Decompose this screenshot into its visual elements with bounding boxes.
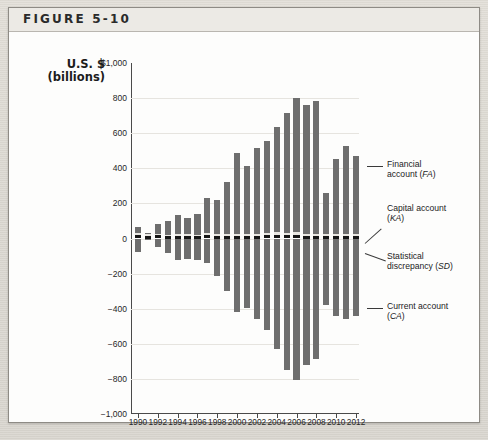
bar-group <box>145 63 151 414</box>
annotation-capital-account: Capital account(KA) <box>387 203 483 224</box>
bar-segment-financial-account <box>333 159 339 233</box>
bar-group <box>204 63 210 414</box>
bar-segment-financial-account <box>165 221 171 234</box>
bar-group <box>135 63 141 414</box>
bar-segment-current-account <box>333 239 339 317</box>
bar-segment-financial-account <box>303 105 309 234</box>
x-axis-tick-label: 2000 <box>228 417 246 427</box>
bar-segment-financial-account <box>244 166 250 234</box>
bar-segment-financial-account <box>194 214 200 235</box>
bar-segment-financial-account <box>155 224 161 233</box>
x-axis-tick-label: 2004 <box>268 417 286 427</box>
bar-segment-current-account <box>313 239 319 360</box>
x-axis-tick-label: 1998 <box>208 417 226 427</box>
figure-card: FIGURE 5-10 U.S. $ (billions) $1,0008006… <box>8 7 480 423</box>
bar-group <box>214 63 220 414</box>
bar-group <box>155 63 161 414</box>
bar-segment-current-account <box>343 239 349 320</box>
bar-segment-financial-account <box>274 127 280 232</box>
bar-segment-current-account <box>284 239 290 370</box>
bar-group <box>303 63 309 414</box>
bar-segment-financial-account <box>175 215 181 234</box>
bar-group <box>293 63 299 414</box>
bar-segment-financial-account <box>135 227 141 234</box>
annotation-leader-line <box>365 228 382 243</box>
annotation-leader-line <box>367 308 383 309</box>
bar-group <box>343 63 349 414</box>
bar-segment-current-account <box>234 239 240 312</box>
y-axis-tick-label: 600 <box>113 128 127 138</box>
bar-segment-current-account <box>323 239 329 306</box>
y-axis-labels: $1,0008006004002000−200−400−600−800−1,00… <box>71 63 127 414</box>
y-axis-tick-label: −400 <box>108 304 127 314</box>
x-axis-tick-label: 1992 <box>149 417 167 427</box>
bar-segment-financial-account <box>353 156 359 235</box>
bar-segment-statistical-discrepancy <box>293 235 299 238</box>
bar-segment-current-account <box>145 239 151 240</box>
y-axis-tick-label: $1,000 <box>101 58 127 68</box>
bar-segment-current-account <box>244 239 250 309</box>
bar-segment-current-account <box>353 239 359 316</box>
x-axis-labels: 1990199219941996199820002002200420062008… <box>131 417 363 431</box>
bar-segment-financial-account <box>343 146 349 234</box>
bar-segment-financial-account <box>264 141 270 234</box>
chart-annotations: Financialaccount (FA)Capital account(KA)… <box>365 63 483 363</box>
bar-segment-current-account <box>155 239 161 248</box>
annotation-line1: Statistical <box>387 251 483 261</box>
x-axis-tick-label: 2002 <box>248 417 266 427</box>
bar-group <box>264 63 270 414</box>
annotation-line1: Capital account <box>387 203 483 213</box>
bar-segment-financial-account <box>254 148 260 233</box>
bar-segment-financial-account <box>204 198 210 233</box>
bar-segment-current-account <box>254 239 260 320</box>
y-axis-tick-label: −200 <box>108 269 127 279</box>
bar-segment-current-account <box>135 239 141 253</box>
bar-group <box>313 63 319 414</box>
bar-segment-current-account <box>293 239 299 381</box>
bar-group <box>184 63 190 414</box>
y-axis-tick-label: −600 <box>108 339 127 349</box>
bar-segment-financial-account <box>184 218 190 235</box>
bar-group <box>353 63 359 414</box>
bar-segment-current-account <box>194 239 200 261</box>
x-axis-tick-label: 2008 <box>307 417 325 427</box>
x-axis-tick-label: 1996 <box>188 417 206 427</box>
bar-segment-current-account <box>184 239 190 259</box>
plot-area <box>131 63 359 414</box>
bar-segment-financial-account <box>284 113 290 232</box>
bar-segment-financial-account <box>323 193 329 235</box>
bar-group <box>274 63 280 414</box>
bar-segment-current-account <box>274 239 280 350</box>
annotation-current-account: Current account(CA) <box>387 301 483 322</box>
y-axis-tick-label: 0 <box>122 234 127 244</box>
bar-group <box>333 63 339 414</box>
x-axis-tick-label: 2010 <box>327 417 345 427</box>
bar-group <box>234 63 240 414</box>
bar-group <box>323 63 329 414</box>
bar-segment-current-account <box>175 239 181 260</box>
x-axis-tick-label: 1994 <box>168 417 186 427</box>
annotation-line2: (CA) <box>387 311 483 321</box>
annotation-statistical-discrepancy: Statisticaldiscrepancy (SD) <box>387 251 483 272</box>
x-axis-tick-label: 2012 <box>347 417 365 427</box>
bar-group <box>194 63 200 414</box>
y-axis-tick-label: 800 <box>113 93 127 103</box>
annotation-financial-account: Financialaccount (FA) <box>387 159 483 180</box>
annotation-leader-line <box>365 253 386 261</box>
bar-segment-current-account <box>204 239 210 264</box>
figure-header: FIGURE 5-10 <box>9 8 479 32</box>
x-axis-tick-label: 1990 <box>129 417 147 427</box>
bar-segment-current-account <box>214 239 220 277</box>
bar-segment-current-account <box>165 239 171 254</box>
bar-group <box>244 63 250 414</box>
bar-group <box>284 63 290 414</box>
annotation-leader-line <box>367 166 383 167</box>
annotation-line2: (KA) <box>387 213 483 223</box>
y-axis-tick-label: 400 <box>113 163 127 173</box>
bar-segment-financial-account <box>224 182 230 234</box>
bar-segment-financial-account <box>293 98 299 232</box>
bar-segment-financial-account <box>234 153 240 234</box>
y-axis-tick-label: −800 <box>108 374 127 384</box>
y-axis-tick-label: −1,000 <box>101 409 127 419</box>
bar-group <box>175 63 181 414</box>
